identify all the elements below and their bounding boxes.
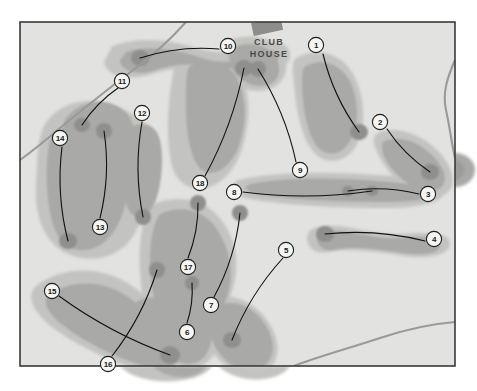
hole-marker-16[interactable]: 16 [100,356,115,371]
hole-marker-label-14: 14 [56,134,65,143]
hole-marker-label-11: 11 [118,77,127,86]
hole-marker-label-12: 12 [138,109,147,118]
hole-marker-1[interactable]: 1 [308,37,323,52]
clubhouse-label-line1: CLUB [254,37,284,47]
hole-marker-label-10: 10 [224,42,233,51]
clubhouse-label-line2: HOUSE [250,49,289,59]
hole-marker-8[interactable]: 8 [226,184,241,199]
hole-marker-2[interactable]: 2 [372,114,387,129]
hole-marker-5[interactable]: 5 [278,242,293,257]
hole-marker-12[interactable]: 12 [134,105,149,120]
hole-marker-15[interactable]: 15 [44,283,59,298]
hole-marker-10[interactable]: 10 [220,38,235,53]
hole-marker-3[interactable]: 3 [420,186,435,201]
hole-marker-label-17: 17 [184,263,193,272]
golf-course-map: CLUB HOUSE 123456789101112131415161718 [0,0,477,391]
hole-marker-label-15: 15 [48,287,57,296]
hole-marker-11[interactable]: 11 [114,73,129,88]
hole-marker-7[interactable]: 7 [203,297,218,312]
map-canvas: CLUB HOUSE 123456789101112131415161718 [0,0,477,391]
hole-marker-9[interactable]: 9 [292,162,307,177]
hole-marker-18[interactable]: 18 [192,175,207,190]
hole-marker-6[interactable]: 6 [179,324,194,339]
hole-marker-17[interactable]: 17 [180,259,195,274]
hole-marker-4[interactable]: 4 [426,231,441,246]
hole-marker-13[interactable]: 13 [92,219,107,234]
hole-marker-label-16: 16 [104,360,113,369]
hole-marker-label-18: 18 [196,179,205,188]
hole-marker-label-13: 13 [96,223,105,232]
hole-marker-14[interactable]: 14 [52,130,67,145]
